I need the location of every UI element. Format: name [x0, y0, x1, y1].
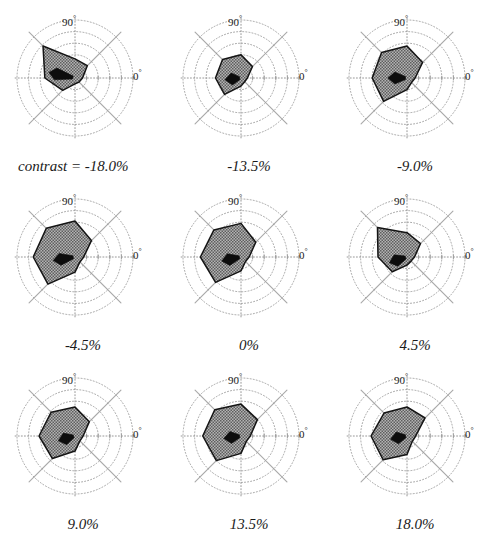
degree-symbol-icon: °: [239, 372, 242, 381]
axis-label-0: 0°: [299, 428, 308, 440]
axis-label-90-value: 90: [394, 195, 405, 207]
degree-symbol-icon: °: [139, 68, 142, 77]
panel-caption: 9.0%: [0, 516, 166, 533]
axis-label-90-value: 90: [62, 195, 73, 207]
degree-symbol-icon: °: [405, 193, 408, 202]
polar-plot: 90°0°: [0, 187, 166, 335]
polar-panel: 90°0°4.5%: [332, 187, 498, 366]
degree-symbol-icon: °: [239, 193, 242, 202]
axis-label-90: 90°: [394, 16, 408, 28]
axis-label-90-value: 90: [228, 195, 239, 207]
polar-panel: 90°0°-4.5%: [0, 187, 166, 366]
panel-caption: 13.5%: [166, 516, 332, 533]
panel-caption: contrast = -18.0%: [0, 158, 166, 175]
degree-symbol-icon: °: [471, 247, 474, 256]
polar-plot: 90°0°: [166, 366, 332, 514]
axis-label-0: 0°: [465, 428, 474, 440]
axis-label-90: 90°: [62, 195, 76, 207]
tuning-polygon: [33, 221, 91, 284]
axis-label-90-value: 90: [62, 16, 73, 28]
axis-label-90: 90°: [394, 374, 408, 386]
panel-caption: -4.5%: [0, 337, 166, 354]
axis-label-0: 0°: [299, 249, 308, 261]
axis-label-90-value: 90: [394, 374, 405, 386]
polar-panel: 90°0°-9.0%: [332, 8, 498, 187]
degree-symbol-icon: °: [73, 14, 76, 23]
axis-label-0: 0°: [299, 70, 308, 82]
panel-caption: -9.0%: [332, 158, 498, 175]
axis-label-90: 90°: [394, 195, 408, 207]
axis-label-0: 0°: [465, 70, 474, 82]
degree-symbol-icon: °: [305, 247, 308, 256]
degree-symbol-icon: °: [139, 426, 142, 435]
degree-symbol-icon: °: [73, 193, 76, 202]
degree-symbol-icon: °: [405, 14, 408, 23]
panel-caption: 0%: [166, 337, 332, 354]
tuning-polygon: [39, 407, 89, 459]
axis-label-90: 90°: [62, 374, 76, 386]
polar-panel: 90°0°18.0%: [332, 366, 498, 538]
panel-caption: 18.0%: [332, 516, 498, 533]
polar-plot: 90°0°: [0, 366, 166, 514]
polar-plot: 90°0°: [332, 8, 498, 156]
degree-symbol-icon: °: [471, 426, 474, 435]
polar-panel: 90°0°contrast = -18.0%: [0, 8, 166, 187]
axis-label-90-value: 90: [228, 16, 239, 28]
axis-label-90-value: 90: [228, 374, 239, 386]
axis-label-0: 0°: [133, 428, 142, 440]
axis-label-90-value: 90: [62, 374, 73, 386]
degree-symbol-icon: °: [471, 68, 474, 77]
polar-panel: 90°0°0%: [166, 187, 332, 366]
panel-caption: 4.5%: [332, 337, 498, 354]
polar-plot: 90°0°: [332, 366, 498, 514]
axis-label-0: 0°: [133, 249, 142, 261]
polar-plot: 90°0°: [0, 8, 166, 156]
tuning-polygon: [200, 223, 255, 282]
axis-label-90-value: 90: [394, 16, 405, 28]
degree-symbol-icon: °: [405, 372, 408, 381]
degree-symbol-icon: °: [239, 14, 242, 23]
degree-symbol-icon: °: [73, 372, 76, 381]
axis-label-90: 90°: [228, 16, 242, 28]
axis-label-0: 0°: [133, 70, 142, 82]
panel-caption: -13.5%: [166, 158, 332, 175]
degree-symbol-icon: °: [305, 426, 308, 435]
polar-plot: 90°0°: [332, 187, 498, 335]
polar-plot: 90°0°: [166, 187, 332, 335]
axis-label-90: 90°: [228, 195, 242, 207]
degree-symbol-icon: °: [139, 247, 142, 256]
polar-tuning-figure: 90°0°contrast = -18.0%90°0°-13.5%90°0°-9…: [0, 0, 500, 538]
axis-label-0: 0°: [465, 249, 474, 261]
degree-symbol-icon: °: [305, 68, 308, 77]
polar-panel: 90°0°9.0%: [0, 366, 166, 538]
axis-label-90: 90°: [62, 16, 76, 28]
polar-panel: 90°0°-13.5%: [166, 8, 332, 187]
polar-plot: 90°0°: [166, 8, 332, 156]
axis-label-90: 90°: [228, 374, 242, 386]
polar-panel: 90°0°13.5%: [166, 366, 332, 538]
